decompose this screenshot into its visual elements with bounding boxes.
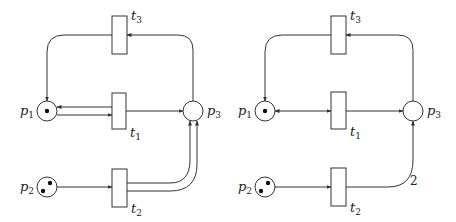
petri-net-figure: p1 p2 p3 t3 t1 t2 2 p1 p2 p3 t3 t1 t2: [0, 0, 456, 222]
transition-t1: [112, 93, 126, 129]
label-p3: p3: [427, 103, 441, 120]
token: [48, 181, 52, 185]
transition-t3: [331, 16, 346, 54]
label-t3: t3: [350, 8, 361, 25]
token: [266, 181, 270, 185]
label-t2: t2: [350, 200, 361, 217]
petri-net-left: p1 p2 p3 t3 t1 t2: [20, 8, 221, 218]
arc-p3-t3: [346, 35, 413, 101]
arc-p3-t3: [127, 35, 193, 101]
label-p3: p3: [207, 103, 221, 120]
label-p2: p2: [238, 179, 252, 196]
label-p2: p2: [20, 179, 34, 196]
token: [259, 189, 263, 193]
arc-t3-p1: [265, 35, 331, 101]
place-p2: [255, 177, 275, 197]
label-t3: t3: [131, 8, 142, 25]
arc-weight-label: 2: [410, 174, 418, 188]
transition-t2: [331, 168, 346, 206]
token: [263, 109, 267, 113]
token: [41, 189, 45, 193]
place-p2: [37, 177, 57, 197]
label-p1: p1: [238, 103, 252, 120]
place-p3: [403, 101, 423, 121]
token: [45, 109, 49, 113]
transition-t3: [112, 16, 127, 54]
petri-net-right: 2 p1 p2 p3 t3 t1 t2: [238, 8, 441, 217]
label-t1: t1: [130, 125, 141, 142]
transition-t1: [331, 92, 346, 129]
label-t1: t1: [350, 124, 361, 141]
transition-t2: [112, 169, 127, 207]
arc-t3-p1: [47, 35, 112, 101]
label-p1: p1: [20, 103, 34, 120]
label-t2: t2: [131, 201, 142, 218]
arc-t2-p3-a: [127, 121, 190, 183]
place-p3: [183, 101, 203, 121]
